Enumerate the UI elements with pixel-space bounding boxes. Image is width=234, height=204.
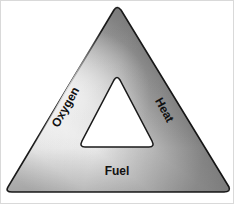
fire-triangle-diagram: Oxygen Heat Fuel xyxy=(0,0,234,204)
label-fuel: Fuel xyxy=(105,164,130,178)
fire-triangle-graphic: Oxygen Heat Fuel xyxy=(1,1,234,204)
